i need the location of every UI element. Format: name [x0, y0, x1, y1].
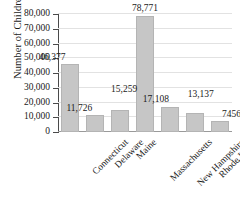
y-axis-tick: [53, 132, 58, 133]
bar: [211, 121, 229, 132]
y-axis-tick-label: 70,000: [4, 23, 50, 33]
y-axis-tick-label: 80,000: [4, 8, 50, 18]
plot-area: [58, 14, 232, 132]
bar: [86, 115, 104, 132]
bar-value-label: 78,771: [122, 3, 168, 13]
bar-value-label: 11,726: [56, 103, 102, 113]
bar: [136, 16, 154, 132]
gridline: [58, 13, 232, 14]
bar: [186, 113, 204, 132]
bar: [161, 107, 179, 132]
y-axis-tick-label: 30,000: [4, 82, 50, 92]
y-axis-tick-label: 40,000: [4, 67, 50, 77]
bar-value-label: 46,377: [29, 52, 75, 62]
bar: [61, 64, 79, 132]
y-axis-tick-label: 20,000: [4, 97, 50, 107]
bar-value-label: 17,108: [133, 94, 179, 104]
bar-chart-figure: Number of Children 010,00020,00030,00040…: [0, 0, 240, 204]
bar-value-label: 7456: [209, 109, 240, 119]
bar: [111, 110, 129, 133]
y-axis-tick-label: 0: [4, 126, 50, 136]
y-axis-tick-label: 10,000: [4, 111, 50, 121]
bar-value-label: 13,137: [178, 89, 224, 99]
y-axis-tick-label: 60,000: [4, 38, 50, 48]
